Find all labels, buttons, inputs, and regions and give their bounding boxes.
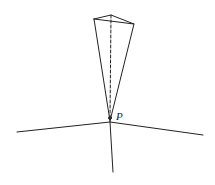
hidden-edge-dashed xyxy=(110,15,111,118)
apex-label: P xyxy=(115,110,123,122)
top-face-edge xyxy=(94,15,134,24)
lateral-edge-right xyxy=(110,24,134,121)
geometry-diagram: P xyxy=(0,0,215,185)
lateral-edge-left xyxy=(94,19,110,121)
ray-left xyxy=(17,122,110,132)
ray-down xyxy=(110,122,113,172)
ray-right xyxy=(110,122,203,135)
